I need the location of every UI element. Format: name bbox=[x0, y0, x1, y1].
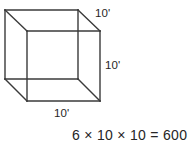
cube-edge-connector-top-left bbox=[5, 10, 27, 31]
surface-area-equation: 6 × 10 × 10 = 600 bbox=[72, 127, 187, 144]
cube-edge-connector-bottom-right bbox=[78, 79, 100, 101]
cube-volume-figure: 10' 10' 10' 6 × 10 × 10 = 600 bbox=[0, 0, 189, 149]
dimension-label-height: 10' bbox=[105, 59, 120, 72]
dimension-label-width: 10' bbox=[54, 107, 69, 120]
dimension-label-depth: 10' bbox=[95, 7, 110, 20]
cube-edge-connector-bottom-left bbox=[5, 79, 27, 101]
